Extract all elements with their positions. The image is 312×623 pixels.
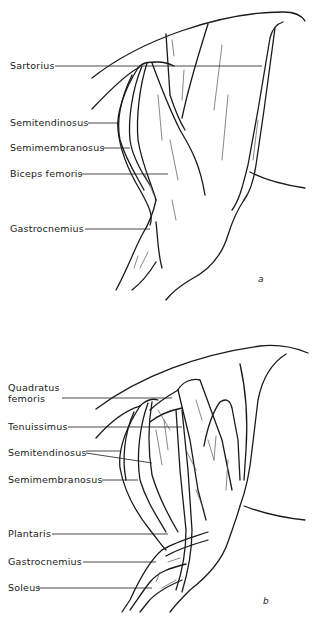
figure-b-drawing xyxy=(0,310,312,623)
label-semitendinosus: Semitendinosus xyxy=(8,447,87,458)
label-semitendinosus: Semitendinosus xyxy=(10,117,89,128)
label-gastrocnemius: Gastrocnemius xyxy=(10,223,84,234)
figure-a-superficial-muscles: Sartorius Semitendinosus Semimembranosus… xyxy=(0,0,312,310)
label-tenuissimus: Tenuissimus xyxy=(8,421,68,432)
label-gastrocnemius: Gastrocnemius xyxy=(8,556,82,567)
label-quadratus-femoris-line1: Quadratus xyxy=(8,382,60,393)
label-semimembranosus: Semimembranosus xyxy=(8,474,103,485)
label-sartorius: Sartorius xyxy=(10,60,55,71)
label-biceps-femoris: Biceps femoris xyxy=(10,168,83,179)
label-quadratus-femoris: Quadratus femoris xyxy=(8,382,60,404)
label-soleus: Soleus xyxy=(8,582,41,593)
panel-letter-a: a xyxy=(258,274,264,284)
label-semimembranosus: Semimembranosus xyxy=(10,142,105,153)
panel-letter-b: b xyxy=(263,596,269,606)
label-quadratus-femoris-line2: femoris xyxy=(8,393,60,404)
label-plantaris: Plantaris xyxy=(8,528,51,539)
figure-a-drawing xyxy=(0,0,312,310)
figure-b-deep-muscles: Quadratus femoris Tenuissimus Semitendin… xyxy=(0,310,312,623)
